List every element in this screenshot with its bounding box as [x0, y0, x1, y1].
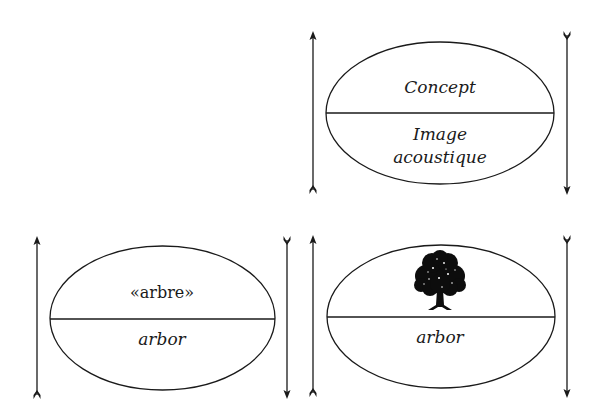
- arbor-label: arbor: [138, 329, 186, 349]
- arrow-down-right: [284, 236, 291, 399]
- acoustique-label: acoustique: [393, 147, 487, 167]
- sign-diagram-arbre: «arbre» arbor: [34, 236, 291, 399]
- image-label: Image: [412, 124, 467, 144]
- sign-diagram-general: Concept Image acoustique: [310, 31, 571, 195]
- arrow-up-left: [310, 235, 317, 397]
- arbor-label: arbor: [416, 327, 464, 347]
- arrow-up-left: [34, 236, 41, 399]
- tree-icon: [414, 250, 466, 310]
- sign-diagram-tree: arbor: [310, 235, 571, 398]
- saussure-sign-diagram: Concept Image acoustique «arbre» arbor: [0, 0, 602, 412]
- arrow-up-left: [310, 31, 317, 194]
- sign-ellipse: [50, 246, 275, 390]
- arrow-down-right: [564, 31, 571, 195]
- concept-label: Concept: [404, 77, 476, 97]
- arrow-down-right: [564, 235, 571, 398]
- arbre-label: «arbre»: [130, 283, 194, 302]
